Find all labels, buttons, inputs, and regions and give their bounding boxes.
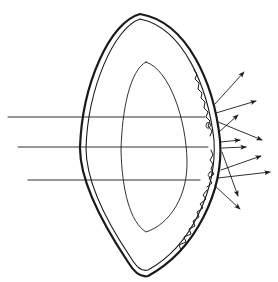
scattered-ray-arrow [215,186,240,209]
lens-capsule-outer [80,14,220,276]
scattered-ray-arrow [215,72,244,104]
scattered-ray-arrow [221,156,261,170]
lens-scattering-diagram [0,0,278,282]
scattered-ray-arrow [222,152,238,196]
scattered-ray-arrow [222,147,246,148]
cortical-irregularity-upper [194,70,212,136]
incident-rays [8,117,208,180]
scattered-ray-arrow [218,172,270,178]
scattered-ray-arrow [216,101,256,113]
scattered-ray-arrow [218,122,262,140]
scattered-ray-arrow [221,140,240,142]
scattered-rays [215,72,270,209]
